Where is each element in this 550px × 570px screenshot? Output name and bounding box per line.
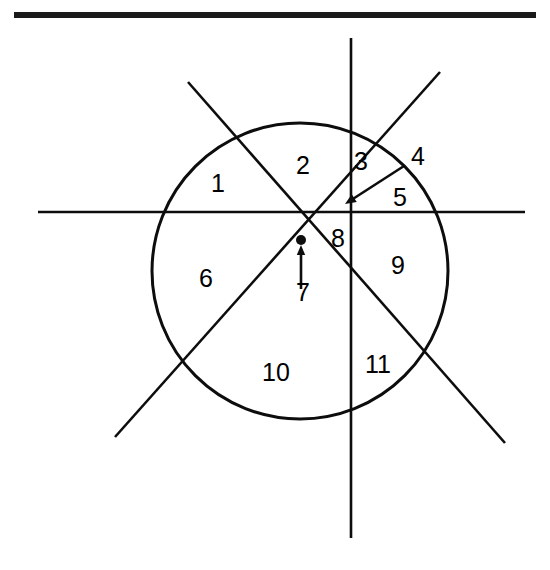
top-rule [14, 12, 536, 18]
region-label-8: 8 [331, 224, 345, 252]
region-label-1: 1 [211, 169, 225, 197]
region-label-10: 10 [262, 358, 290, 386]
diagonal-nw-se [188, 82, 505, 443]
region-label-9: 9 [391, 251, 405, 279]
arrow-to-region-7-head [297, 245, 305, 255]
region-labels-group: 1234567891011 [199, 142, 425, 386]
region-label-7: 7 [296, 278, 310, 306]
region-label-6: 6 [199, 264, 213, 292]
lines-group [38, 38, 525, 538]
region-label-4: 4 [411, 142, 425, 170]
region-label-3: 3 [354, 147, 368, 175]
region-diagram: 1234567891011 [0, 0, 550, 570]
region-label-2: 2 [296, 151, 310, 179]
region-label-11: 11 [365, 350, 391, 378]
center-intersection-dot [296, 235, 306, 245]
figure-container: 1234567891011 [0, 0, 550, 570]
region-label-5: 5 [393, 183, 407, 211]
